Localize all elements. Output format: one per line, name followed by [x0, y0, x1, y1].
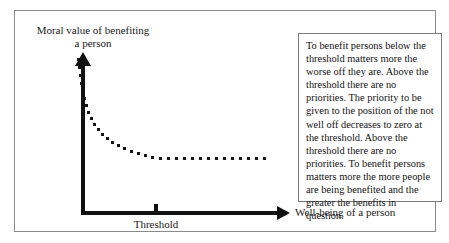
- curve-data-point: [97, 128, 100, 131]
- curve-data-point: [183, 157, 186, 160]
- curve-data-point: [175, 157, 178, 160]
- annotation-text: To benefit persons below the threshold m…: [306, 39, 435, 222]
- annotation-text-box: To benefit persons below the threshold m…: [298, 33, 442, 202]
- curve-data-point: [111, 141, 114, 144]
- figure-page: Moral value of benefiting a person Well-…: [0, 0, 449, 243]
- curve-data-point: [137, 152, 140, 155]
- y-axis-line: [81, 65, 85, 215]
- x-axis-arrow-icon: [277, 206, 290, 220]
- curve-data-point: [199, 157, 202, 160]
- curve-data-point: [263, 157, 266, 160]
- curve-data-point: [247, 157, 250, 160]
- curve-data-point: [90, 117, 93, 120]
- x-axis-line: [81, 211, 281, 215]
- curve-data-point: [123, 147, 126, 150]
- curve-data-point: [159, 157, 162, 160]
- figure-frame: Moral value of benefiting a person Well-…: [14, 10, 436, 232]
- curve-data-point: [85, 104, 88, 107]
- curve-data-point: [144, 154, 147, 157]
- curve-data-point: [130, 150, 133, 153]
- curve-data-point: [93, 123, 96, 126]
- curve-data-point: [87, 111, 90, 114]
- threshold-tick-mark: [154, 204, 158, 212]
- y-axis-label: Moral value of benefiting a person: [33, 24, 153, 50]
- curve-data-point: [167, 157, 170, 160]
- curve-data-point: [223, 157, 226, 160]
- curve-data-point: [207, 157, 210, 160]
- curve-data-point: [117, 144, 120, 147]
- curve-data-point: [101, 133, 104, 136]
- curve-data-point: [215, 157, 218, 160]
- curve-data-point: [106, 137, 109, 140]
- curve-data-point: [151, 156, 154, 159]
- curve-data-point: [191, 157, 194, 160]
- y-axis-arrow-icon: [75, 52, 91, 66]
- curve-data-point: [239, 157, 242, 160]
- curve-data-point: [255, 157, 258, 160]
- curve-data-point: [231, 157, 234, 160]
- threshold-label: Threshold: [118, 218, 194, 230]
